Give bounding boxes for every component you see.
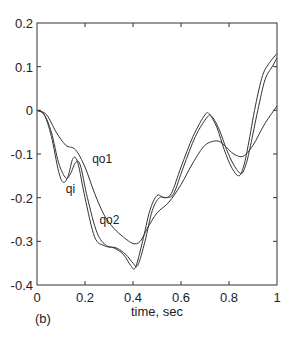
- x-tick-label: 0.4: [124, 290, 142, 305]
- y-tick-label: 0.2: [15, 16, 33, 31]
- y-tick-label: -0.1: [11, 147, 33, 162]
- x-tick-label: 0: [33, 290, 40, 305]
- x-axis-label: time, sec: [131, 304, 184, 319]
- x-tick-label: 0.2: [76, 290, 94, 305]
- y-tick-label: 0: [26, 103, 33, 118]
- series-qi-line: [37, 54, 277, 270]
- x-tick-label: 0.8: [220, 290, 238, 305]
- axis-ticks: 00.20.40.60.810.20.10-0.1-0.2-0.3-0.4: [11, 16, 281, 305]
- x-tick-label: 0.6: [172, 290, 190, 305]
- annotation-qo2: qo2: [99, 213, 119, 227]
- series-qo2-line: [37, 58, 277, 267]
- series-qo1-line: [37, 106, 277, 244]
- y-tick-label: 0.1: [15, 60, 33, 75]
- plot-frame: [37, 23, 277, 285]
- annotation-qo1: qo1: [92, 152, 112, 166]
- panel-label: (b): [35, 311, 51, 326]
- x-tick-label: 1: [273, 290, 280, 305]
- annotation-qi: qi: [66, 182, 75, 196]
- line-chart: 00.20.40.60.810.20.10-0.1-0.2-0.3-0.4 qo…: [0, 0, 294, 339]
- series-lines: [37, 54, 277, 270]
- y-tick-label: -0.4: [11, 278, 33, 293]
- y-tick-label: -0.2: [11, 191, 33, 206]
- y-tick-label: -0.3: [11, 234, 33, 249]
